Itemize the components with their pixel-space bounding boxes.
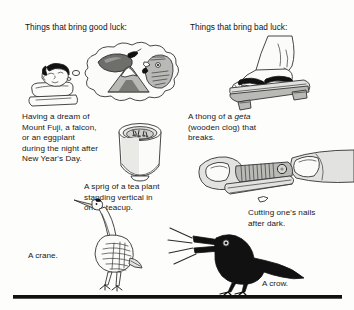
caw-lines: [168, 228, 196, 264]
nail-clipping: [258, 197, 268, 203]
illustration-crane: [72, 188, 144, 293]
label-crow: A crow.: [262, 279, 288, 290]
textbook-page: Things that bring good luck: Things that…: [0, 0, 354, 310]
geta-tooth-back: [292, 90, 307, 100]
label-crane: A crane.: [28, 251, 58, 262]
geta-tooth-front: [238, 100, 251, 110]
crane-tail: [129, 258, 142, 268]
blanket-icon: [29, 95, 78, 106]
illustration-geta: [216, 36, 328, 112]
crane-neck: [99, 207, 116, 236]
illustration-dream-scene: [22, 40, 182, 110]
caption-geta-part1: A thong of a: [188, 112, 235, 121]
caption-geta: A thong of a geta (wooden clog) that bre…: [188, 112, 298, 144]
crane-body: [95, 235, 133, 272]
thought-dot-small: [67, 78, 71, 81]
illustration-teacup: [112, 118, 168, 184]
teacup-foot: [131, 176, 149, 181]
crane-beak: [74, 200, 94, 208]
caption-geta-italic-term: geta: [235, 112, 251, 121]
sleeping-head-icon: [42, 63, 69, 86]
bottom-rule: [13, 295, 342, 299]
crow-legs: [220, 283, 248, 295]
right-column-heading: Things that bring bad luck:: [190, 22, 287, 33]
crane-legs: [100, 272, 122, 291]
illustration-nail-clipper: [196, 148, 354, 210]
left-column-heading: Things that bring good luck:: [25, 22, 127, 33]
caption-geta-part2: (wooden clog) that breaks.: [188, 123, 256, 143]
fingernail: [294, 156, 320, 177]
thought-dot-large: [72, 70, 79, 75]
